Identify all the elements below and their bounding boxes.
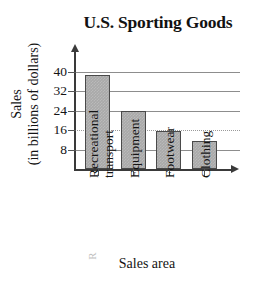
category-label: Clothing [199,131,214,178]
y-axis-label: Sales (in billions of dollars) [8,29,48,179]
category-label-line: transport [101,110,116,178]
y-axis-arrow-icon [71,44,79,52]
y-axis-label-line1: Sales [8,29,25,179]
category-label: Footwear [163,127,178,178]
category-label-line: Equipment [128,119,143,178]
category-label-line: Recreational [87,110,102,178]
y-axis-label-line2: (in billions of dollars) [25,29,42,179]
y-axis-tick-label: 16 [54,122,68,138]
chart-title: U.S. Sporting Goods [62,12,254,33]
y-axis-tick-label: 32 [54,83,68,99]
y-axis-tick [68,111,76,112]
y-axis-tick [68,130,76,131]
y-axis-tick [68,72,76,73]
gridline [74,72,240,73]
y-axis-tick [68,91,76,92]
y-axis-tick [68,150,76,151]
y-axis-tick-label: 24 [54,102,68,118]
x-axis-label: Sales area [72,256,222,272]
category-label-line: Clothing [199,131,214,178]
x-axis-arrow-icon [231,165,239,173]
category-label: Recreationaltransport [87,110,116,178]
category-label-line: Footwear [163,127,178,178]
y-axis-tick-label: 8 [60,141,67,157]
category-label: Equipment [128,119,143,178]
y-axis-line [74,50,76,169]
y-axis-tick-label: 40 [54,63,68,79]
chart-figure: U.S. Sporting Goods Sales (in billions o… [0,0,258,283]
